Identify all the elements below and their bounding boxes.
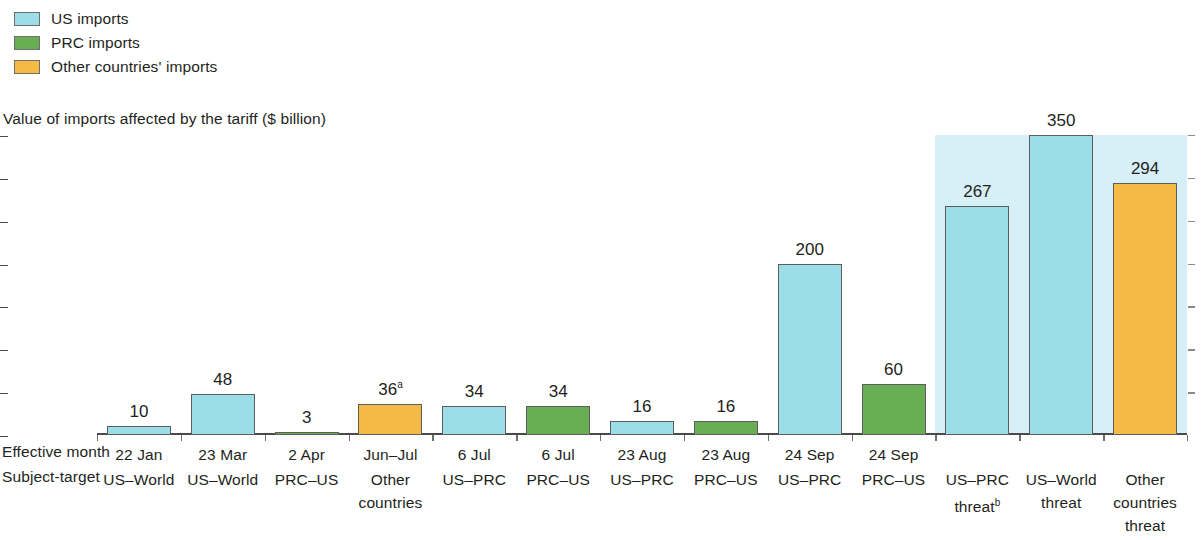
bar[interactable] [275,432,339,435]
legend-label-prc: PRC imports [51,35,140,51]
x-label-line: countries [349,491,433,514]
x-label-effective-month: 24 Sep [852,443,936,466]
x-axis-tick [97,435,98,441]
x-label-line: PRC–US [516,468,600,491]
bar-value-label: 294 [1099,159,1191,179]
x-axis-tick [1019,435,1020,441]
legend-label-us: US imports [51,11,129,27]
x-label-subject-target: PRC–US [852,468,936,491]
x-label-subject-target: US–Worldthreat [1019,468,1103,514]
legend-item-us[interactable]: US imports [14,8,217,30]
y-axis-tick-label-100: 100 [0,340,8,358]
legend-label-other: Other countries' imports [51,59,217,75]
bar-value-label: 60 [848,360,940,380]
x-label-subject-target: PRC–US [684,468,768,491]
legend-item-other[interactable]: Other countries' imports [14,56,217,78]
bar[interactable] [1113,183,1177,435]
x-label-line: countries [1103,491,1187,514]
legend-swatch-other [14,60,40,74]
x-axis-tick [1187,435,1188,441]
y-tick-mark [0,436,8,437]
bar-value-label: 16 [596,397,688,417]
x-axis-tick [852,435,853,441]
x-label-line: US–PRC [432,468,516,491]
x-label-effective-month: 23 Aug [600,443,684,466]
bar-value-label: 3 [261,408,353,428]
x-label-subject-target: PRC–US [516,468,600,491]
x-axis-tick [684,435,685,441]
plot-area: 1048336a3434161620060267350294 [97,135,1187,435]
legend-item-prc[interactable]: PRC imports [14,32,217,54]
y-axis-right-tick-250 [1188,221,1195,222]
y-tick-mark [0,179,8,180]
bar[interactable] [862,384,926,435]
bar[interactable] [526,406,590,435]
y-axis-tick-label-0: 0 [0,426,8,444]
y-axis-right-tick-350 [1188,135,1195,136]
y-tick-mark [0,222,8,223]
x-label-subject-target: Othercountries [349,468,433,514]
x-label-effective-month: Jun–Jul [349,443,433,466]
x-label-effective-month: 6 Jul [516,443,600,466]
x-label-effective-month: 22 Jan [97,443,181,466]
x-label-subject-target: US–PRC [768,468,852,491]
x-axis-tick [768,435,769,441]
bar-value: 3 [302,408,311,427]
x-axis-tick [1103,435,1104,441]
x-label-line: PRC–US [684,468,768,491]
x-axis-tick [600,435,601,441]
x-axis-tick [935,435,936,441]
chart-root: US importsPRC importsOther countries' im… [0,0,1201,540]
bar-value-label: 34 [428,382,520,402]
legend: US importsPRC importsOther countries' im… [14,8,217,80]
bar[interactable] [191,394,255,435]
y-tick-mark [0,350,8,351]
bar-value: 294 [1131,159,1159,178]
x-label-effective-month: 23 Mar [181,443,265,466]
x-axis-tick [349,435,350,441]
x-label-line: US–PRC [935,468,1019,491]
bar-value-label: 36a [344,379,436,400]
bar-value: 267 [963,182,991,201]
bar-value-label: 16 [680,397,772,417]
x-axis-tick [432,435,433,441]
x-label-line: US–PRC [768,468,852,491]
bar[interactable] [610,421,674,435]
bar[interactable] [945,206,1009,435]
y-axis-tick-label-250: 250 [0,212,8,230]
row-label-subject-target: Subject-target [2,468,100,486]
row-label-effective-month: Effective month [2,443,110,461]
x-label-subject-target: Othercountriesthreat [1103,468,1187,537]
bar[interactable] [358,404,422,435]
bar[interactable] [778,264,842,435]
bar[interactable] [442,406,506,435]
bar-value-footnote: a [397,379,403,390]
bar[interactable] [694,421,758,435]
x-label-line: US–World [1019,468,1103,491]
x-label-line: US–World [181,468,265,491]
bar-value-label: 34 [512,382,604,402]
y-axis-title: Value of imports affected by the tariff … [3,110,326,128]
y-tick-mark [0,393,8,394]
legend-swatch-prc [14,36,40,50]
x-label-line: Other [349,468,433,491]
x-label-line: US–World [97,468,181,491]
y-axis-right-tick-150 [1188,306,1195,307]
bar-value-label: 267 [931,182,1023,202]
y-tick-mark [0,265,8,266]
y-tick-mark [0,136,8,137]
legend-swatch-us [14,12,40,26]
x-label-line: threatb [935,491,1019,518]
bar-value-label: 10 [93,402,185,422]
bar-value: 60 [884,360,903,379]
x-axis-tick [265,435,266,441]
bar-value: 200 [796,240,824,259]
x-axis-tick [516,435,517,441]
bar[interactable] [107,426,171,435]
bar-value: 16 [633,397,652,416]
x-label-subject-target: PRC–US [265,468,349,491]
x-label-line: threat [1019,491,1103,514]
y-axis-tick-label-350: 350 [0,126,8,144]
bar[interactable] [1029,135,1093,435]
bar-value-label: 48 [177,370,269,390]
